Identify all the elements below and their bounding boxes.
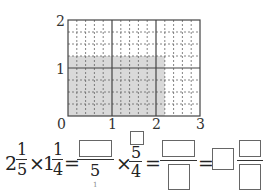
- area-model-grid: [0, 0, 278, 130]
- answer-box-frac3-den[interactable]: [168, 164, 190, 190]
- x-tick-2: 2: [152, 117, 161, 131]
- frac2-den: 4: [131, 164, 141, 180]
- frac1-den: 5: [90, 163, 100, 179]
- x-tick-3: 3: [196, 117, 205, 131]
- mixed1-num: 1: [17, 142, 27, 158]
- x-tick-0: 0: [57, 117, 66, 131]
- mixed2-num: 1: [53, 142, 63, 158]
- x-tick-1: 1: [108, 117, 117, 131]
- frac1-den-mark: 1: [93, 182, 97, 189]
- answer-box-frac3-num[interactable]: [162, 140, 195, 157]
- equals-sign: =: [145, 154, 161, 173]
- y-tick-1: 1: [56, 62, 65, 76]
- mixed1-whole: 2: [5, 154, 17, 173]
- shaded-region: [68, 56, 165, 116]
- answer-box-frac1-num[interactable]: [79, 140, 112, 157]
- answer-box-result-whole[interactable]: [212, 148, 234, 170]
- times-sign: ×: [116, 154, 132, 173]
- y-tick-2: 2: [56, 14, 65, 28]
- mixed2-den: 4: [53, 162, 63, 178]
- equals-sign: =: [64, 154, 80, 173]
- answer-box-result-den[interactable]: [239, 164, 261, 190]
- answer-box-result-num[interactable]: [239, 140, 261, 157]
- fraction-bar: [237, 160, 263, 161]
- frac2-num: 5: [131, 145, 141, 161]
- mixed1-den: 5: [17, 162, 27, 178]
- fraction-bar: [160, 160, 197, 161]
